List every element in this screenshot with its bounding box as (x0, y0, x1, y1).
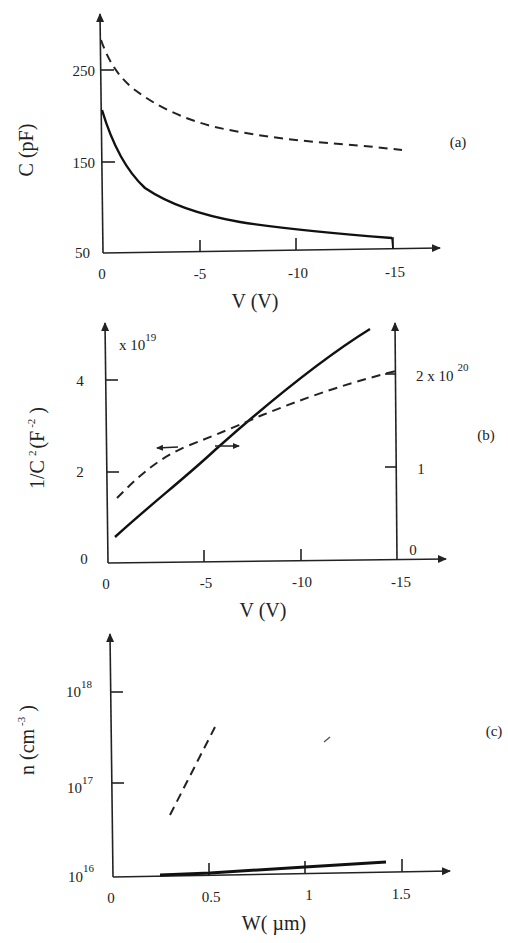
panel-b-left-multiplier: x 1019 (119, 331, 157, 353)
panel-c-ytick-label: 1018 (66, 678, 93, 700)
panel-a-y-axis (100, 14, 103, 253)
panel-b-xtick-label: 0 (102, 576, 110, 592)
panel-b-right-y-axis (395, 323, 397, 560)
panel-b-tag: (b) (477, 427, 495, 444)
panel-a-xtick-label: 0 (98, 266, 106, 282)
panel-c-xtick-label: 0.5 (202, 889, 221, 905)
panel-b-ytick-label-left: 0 (80, 551, 88, 567)
panel-a-y-label: C (pF) (15, 124, 38, 177)
panel-b-ytick-label-left: 2 (76, 464, 84, 480)
panel-b-right-multiplier: 2 x 1020 (416, 361, 469, 384)
panel-c-ytick-label: 1017 (67, 774, 94, 796)
panel-c-ytick-label: 1016 (68, 862, 95, 885)
panel-b-x-axis (108, 559, 446, 563)
panel-c-stray-mark (324, 737, 330, 742)
panel-a-xtick-label: -10 (288, 265, 308, 281)
panel-c: 1018 1017 1016 0 0.5 1 1.5 W( µm) n (cm-… (15, 634, 502, 935)
panel-a-tag: (a) (450, 134, 467, 151)
panel-b-left-arrow (157, 447, 178, 448)
panel-a-dashed-curve (101, 40, 402, 150)
panel-b-solid-line (115, 329, 370, 537)
panel-b-ytick-label-left: 4 (76, 373, 84, 389)
panel-c-y-axis (110, 634, 113, 877)
panel-c-tag: (c) (486, 723, 503, 740)
panel-c-x-label: W( µm) (242, 912, 306, 935)
panel-b-left-y-axis (105, 323, 108, 563)
panel-a-xtick-label: -15 (385, 264, 405, 280)
panel-b-ytick-label-right: 0 (409, 542, 417, 558)
panel-a: 250 150 50 0 -5 -10 -15 V (V) C (pF) (a) (15, 14, 466, 313)
panel-b-xtick-label: -5 (200, 575, 213, 591)
panel-a-x-axis (103, 248, 440, 253)
panel-a-ytick-label: 150 (73, 155, 96, 171)
panel-a-ytick-label: 250 (73, 63, 96, 79)
panel-a-ytick-label: 50 (75, 245, 90, 261)
panel-b-xtick-label: -15 (391, 574, 411, 590)
panel-a-solid-curve (102, 110, 392, 238)
panel-b-y-label: 1/C2(F-2 ) (25, 407, 49, 489)
panel-b-x-label: V (V) (240, 599, 287, 622)
panel-c-xtick-label: 0 (107, 890, 115, 906)
panel-b-ytick-label-right: 1 (417, 461, 425, 477)
panel-b: 0 2 4 0 1 x 1019 2 x 1020 0 -5 -10 -15 V… (25, 323, 495, 622)
panel-b-dashed-line (117, 371, 396, 498)
panel-a-x-label: V (V) (232, 290, 279, 313)
panel-c-xtick-label: 1.5 (392, 886, 411, 902)
panel-b-xtick-label: -10 (292, 574, 312, 590)
panel-a-xtick-label: -5 (194, 266, 207, 282)
panel-c-y-label: n (cm-3 ) (15, 705, 39, 775)
panel-c-xtick-label: 1 (305, 887, 313, 903)
panel-a-solid-end (392, 238, 393, 249)
panel-c-dashed-line (170, 727, 215, 815)
